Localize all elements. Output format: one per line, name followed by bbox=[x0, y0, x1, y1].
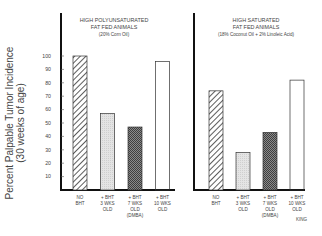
bar bbox=[101, 114, 115, 190]
bar bbox=[156, 61, 170, 190]
x-tick-label: OLD bbox=[238, 207, 248, 212]
credit-label: KING bbox=[296, 217, 308, 222]
x-tick-label: NO bbox=[77, 195, 84, 200]
y-tick-label: 50 bbox=[45, 120, 51, 126]
x-tick-label: + BHT bbox=[101, 195, 114, 200]
y-tick-label: 40 bbox=[45, 133, 51, 139]
x-tick-label: OLD bbox=[158, 207, 168, 212]
x-tick-label: NO bbox=[213, 195, 220, 200]
y-tick-label: 70 bbox=[45, 93, 51, 99]
x-tick-label: 10 WKS bbox=[154, 201, 171, 206]
y-tick-label: 10 bbox=[45, 173, 51, 179]
bar bbox=[209, 91, 223, 190]
panel-polyunsaturated: HIGH POLYUNSATURATEDFAT FED ANIMALS(20% … bbox=[42, 13, 175, 218]
x-tick-label: + BHT bbox=[263, 195, 276, 200]
y-axis-title-line-2: (30 weeks of age) bbox=[15, 83, 26, 163]
y-tick-label: 30 bbox=[45, 147, 51, 153]
chart-title-line: HIGH SATURATED bbox=[233, 17, 280, 23]
y-axis-title: Percent Palpable Tumor Incidence (30 wee… bbox=[4, 46, 26, 199]
x-tick-label: 3 WKS bbox=[236, 201, 250, 206]
chart-title-line: (20% Corn Oil) bbox=[99, 32, 130, 37]
x-tick-label: BHT bbox=[211, 201, 220, 206]
chart: Percent Palpable Tumor Incidence (30 wee… bbox=[0, 0, 322, 236]
x-tick-label: BHT bbox=[75, 201, 84, 206]
x-tick-label: 10 WKS bbox=[289, 201, 306, 206]
x-tick-label: + BHT bbox=[290, 195, 303, 200]
x-tick-label: (DMBA) bbox=[262, 213, 279, 218]
x-tick-label: 7 WKS bbox=[263, 201, 277, 206]
x-tick-label: + BHT bbox=[236, 195, 249, 200]
x-tick-label: OLD bbox=[103, 207, 113, 212]
chart-title-line: (18% Coconut Oil + 2% Linoleic Acid) bbox=[218, 32, 295, 37]
y-axis-title-line-1: Percent Palpable Tumor Incidence bbox=[4, 46, 15, 199]
bar bbox=[73, 56, 87, 190]
y-tick-label: 90 bbox=[45, 66, 51, 72]
bar bbox=[236, 152, 250, 190]
y-tick-label: 60 bbox=[45, 106, 51, 112]
x-tick-label: + BHT bbox=[156, 195, 169, 200]
x-tick-label: + BHT bbox=[128, 195, 141, 200]
x-tick-label: 3 WKS bbox=[100, 201, 114, 206]
x-tick-label: OLD bbox=[265, 207, 275, 212]
x-tick-label: 7 WKS bbox=[128, 201, 142, 206]
chart-title-line: FAT FED ANIMALS bbox=[91, 24, 138, 30]
panel-saturated: HIGH SATURATEDFAT FED ANIMALS(18% Coconu… bbox=[193, 13, 305, 218]
chart-title-line: FAT FED ANIMALS bbox=[233, 24, 280, 30]
bar bbox=[290, 80, 304, 190]
y-tick-label: 100 bbox=[42, 53, 51, 59]
chart-title-line: HIGH POLYUNSATURATED bbox=[80, 17, 149, 23]
bar bbox=[263, 132, 277, 190]
x-tick-label: (DMBA) bbox=[127, 213, 144, 218]
y-tick-label: 20 bbox=[45, 160, 51, 166]
x-tick-label: OLD bbox=[130, 207, 140, 212]
bar bbox=[128, 127, 142, 190]
x-tick-label: OLD bbox=[292, 207, 302, 212]
y-tick-label: 80 bbox=[45, 80, 51, 86]
